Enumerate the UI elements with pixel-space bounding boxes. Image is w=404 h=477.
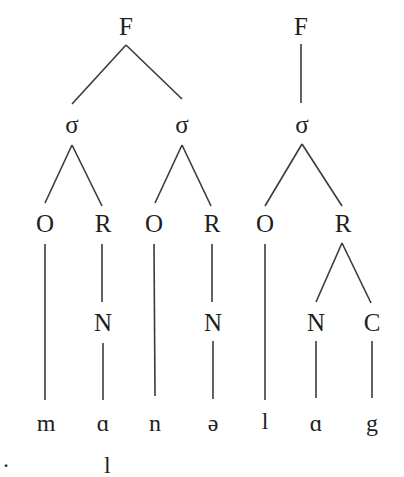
tree-branch-line — [302, 144, 342, 206]
tree-branch-line — [154, 244, 155, 396]
tree-node-n1: N — [94, 310, 112, 335]
caption-fragment: · — [2, 452, 10, 477]
tree-node-f2: F — [294, 14, 308, 39]
tree-node-n2: N — [204, 310, 222, 335]
tree-node-o1: O — [36, 211, 54, 236]
tree-node-s1: σ — [65, 112, 78, 137]
segment-label: g — [366, 411, 378, 435]
tree-branch-line — [182, 145, 211, 206]
segment-label: ɑ — [310, 411, 323, 435]
segment-label: ɑ — [97, 411, 110, 435]
segment-label: ə — [208, 411, 219, 435]
tree-node-s2: σ — [175, 112, 188, 137]
tree-branch-line — [155, 145, 182, 203]
tree-node-r1: R — [95, 211, 112, 236]
tree-branch-line — [316, 243, 342, 302]
tree-branch-line — [126, 45, 182, 99]
tree-node-c3: C — [364, 310, 381, 335]
tree-node-n3: N — [307, 310, 325, 335]
tree-node-r3: R — [335, 211, 352, 236]
tree-branch-line — [72, 45, 126, 104]
tree-branch-line — [72, 145, 102, 206]
tree-branch-line — [342, 243, 371, 303]
segment-label: n — [149, 411, 161, 435]
tree-node-r2: R — [204, 211, 221, 236]
caption-fragment: l — [104, 452, 111, 477]
tree-node-f1: F — [119, 14, 133, 39]
tree-branch-line — [45, 145, 72, 203]
tree-node-o2: O — [145, 211, 163, 236]
tree-node-o3: O — [256, 211, 274, 236]
segment-label: l — [262, 409, 269, 433]
segment-label: m — [37, 411, 56, 435]
tree-branch-line — [265, 144, 302, 206]
tree-node-s3: σ — [295, 112, 308, 137]
